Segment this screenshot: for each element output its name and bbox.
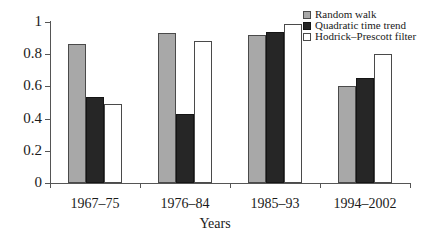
y-tick-label: 0: [35, 175, 43, 190]
legend-label: Hodrick–Prescott filter: [315, 31, 416, 42]
y-tick-label: 1: [35, 14, 43, 29]
x-tick-mark: [410, 183, 411, 188]
y-tick-label: 0.4: [23, 111, 42, 126]
y-tick-label: 0.8: [23, 46, 42, 61]
y-tick-label: 0.6: [23, 78, 42, 93]
plot-area: [50, 22, 410, 183]
legend-item: Hodrick–Prescott filter: [303, 31, 416, 42]
legend-swatch-icon: [303, 33, 311, 41]
legend-swatch-icon: [303, 22, 311, 30]
bar-chart: 00.20.40.60.81 1967–751976–841985–931994…: [0, 0, 430, 248]
bar-random-walk-1: [158, 33, 176, 183]
x-axis-title: Years: [0, 216, 430, 232]
bar-hodrick-prescott-filter-2: [284, 24, 302, 183]
bar-quadratic-time-trend-3: [356, 78, 374, 183]
bar-hodrick-prescott-filter-0: [104, 104, 122, 183]
bar-quadratic-time-trend-1: [176, 114, 194, 183]
x-tick-mark: [140, 183, 141, 188]
x-tick-label: 1985–93: [230, 196, 320, 212]
x-tick-label: 1976–84: [140, 196, 230, 212]
legend-swatch-icon: [303, 11, 311, 19]
y-tick-label: 0.2: [23, 143, 42, 158]
bar-hodrick-prescott-filter-1: [194, 41, 212, 183]
x-tick-mark: [320, 183, 321, 188]
bar-hodrick-prescott-filter-3: [374, 54, 392, 183]
x-tick-mark: [50, 183, 51, 188]
x-tick-label: 1994–2002: [320, 196, 410, 212]
bar-random-walk-2: [248, 35, 266, 183]
bar-random-walk-3: [338, 86, 356, 183]
chart-legend: Random walkQuadratic time trendHodrick–P…: [303, 9, 416, 42]
x-tick-label: 1967–75: [50, 196, 140, 212]
bar-random-walk-0: [68, 44, 86, 183]
bar-quadratic-time-trend-0: [86, 97, 104, 183]
bar-quadratic-time-trend-2: [266, 32, 284, 183]
x-tick-mark: [230, 183, 231, 188]
